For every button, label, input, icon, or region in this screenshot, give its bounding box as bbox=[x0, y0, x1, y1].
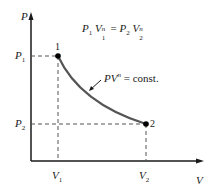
p1-label: P1 bbox=[15, 50, 25, 64]
pv-diagram: P V P1 P2 V1 V2 1 2 P1 Vn1 = P2 Vn2 PVn … bbox=[0, 0, 213, 191]
v1-label: V1 bbox=[52, 170, 62, 184]
point-1-marker bbox=[55, 53, 61, 59]
point-1-label: 1 bbox=[55, 42, 60, 52]
point-2-label: 2 bbox=[150, 119, 155, 129]
curve-label: PVn = const. bbox=[104, 72, 159, 84]
polytropic-equation: P1 Vn1 = P2 Vn2 bbox=[82, 23, 145, 37]
p-axis-label: P bbox=[21, 11, 28, 22]
p-axis-arrow-icon bbox=[29, 12, 34, 20]
v2-label: V2 bbox=[139, 170, 149, 184]
p2-label: P2 bbox=[15, 118, 25, 132]
v-axis-arrow-icon bbox=[196, 159, 204, 164]
v-axis-label: V bbox=[196, 175, 203, 186]
point-2-marker bbox=[143, 121, 149, 127]
polytropic-curve bbox=[58, 56, 146, 124]
